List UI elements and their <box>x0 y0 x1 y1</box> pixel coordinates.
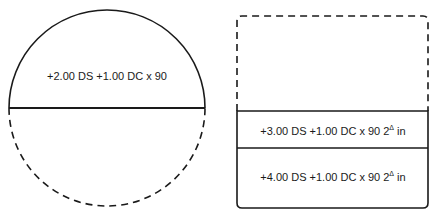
circle-lower-dashed-arc <box>9 108 205 206</box>
rect-segment-1-label: +3.00 DS +1.00 DC x 90 2Δ in <box>260 124 405 137</box>
rect-segment-1-main: +3.00 DS +1.00 DC x 90 2 <box>260 125 389 137</box>
rect-segment-1-suffix: in <box>394 125 406 137</box>
rect-upper-dashed-outline <box>237 16 428 111</box>
rect-segment-2-main: +4.00 DS +1.00 DC x 90 2 <box>260 171 389 183</box>
diagram-canvas <box>0 0 435 217</box>
circle-upper-label: +2.00 DS +1.00 DC x 90 <box>47 70 167 82</box>
rect-segment-2-suffix: in <box>394 171 406 183</box>
rect-segment-2-label: +4.00 DS +1.00 DC x 90 2Δ in <box>260 170 405 183</box>
circle-upper-solid-arc <box>9 10 205 108</box>
